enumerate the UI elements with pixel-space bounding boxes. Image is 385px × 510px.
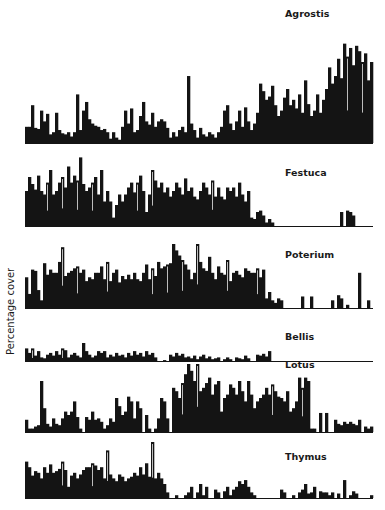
- bar: [223, 491, 226, 498]
- bar: [205, 358, 208, 361]
- bar: [256, 212, 259, 226]
- bar: [151, 353, 154, 361]
- bar: [280, 111, 283, 143]
- bar: [178, 188, 181, 227]
- bar: [148, 195, 151, 227]
- bar: [289, 105, 292, 143]
- bar: [196, 359, 199, 361]
- bar: [214, 384, 217, 432]
- bar: [274, 105, 277, 143]
- bar: [274, 391, 277, 432]
- bar: [70, 476, 73, 498]
- bar: [241, 484, 244, 498]
- bar: [253, 273, 256, 308]
- bar: [58, 130, 61, 143]
- bar: [199, 128, 202, 143]
- bar: [127, 353, 130, 361]
- bar: [205, 383, 208, 432]
- bar: [46, 275, 49, 308]
- bar: [61, 418, 64, 432]
- bar: [43, 467, 46, 498]
- bar: [94, 177, 97, 226]
- bar: [340, 425, 343, 432]
- bar-highlight: [302, 390, 303, 417]
- bar: [262, 270, 265, 308]
- bar: [25, 462, 28, 498]
- bar-highlight: [32, 350, 33, 358]
- bar: [73, 473, 76, 498]
- bar: [274, 303, 277, 308]
- bar: [109, 474, 112, 498]
- bar: [73, 268, 76, 308]
- bar: [199, 262, 202, 308]
- bar: [100, 266, 103, 308]
- bar: [343, 480, 346, 498]
- bar: [199, 191, 202, 226]
- bar: [235, 395, 238, 432]
- bar: [169, 197, 172, 226]
- bar: [172, 244, 175, 308]
- bar: [130, 477, 133, 498]
- bar: [133, 351, 136, 361]
- bar: [55, 471, 58, 498]
- bar: [70, 412, 73, 432]
- bar-highlight: [182, 262, 183, 291]
- bar: [115, 481, 118, 498]
- bar: [25, 191, 28, 226]
- bar: [76, 478, 79, 498]
- bar: [334, 76, 337, 143]
- bar: [190, 279, 193, 308]
- bar: [40, 357, 43, 361]
- bar: [346, 211, 349, 226]
- bar: [52, 273, 55, 308]
- bar: [67, 132, 70, 143]
- bar: [163, 401, 166, 432]
- bar-highlight: [227, 262, 228, 291]
- bar: [154, 127, 157, 143]
- bar: [79, 130, 82, 143]
- bar: [115, 205, 118, 226]
- bar: [241, 359, 244, 361]
- bar: [217, 132, 220, 143]
- bar: [280, 398, 283, 432]
- bar: [265, 223, 268, 227]
- bar: [85, 102, 88, 143]
- bar: [97, 195, 100, 227]
- bar: [223, 199, 226, 226]
- bar: [145, 121, 148, 143]
- bar: [55, 351, 58, 361]
- bar: [298, 378, 301, 432]
- bar: [184, 374, 187, 432]
- bar: [208, 132, 211, 143]
- bar: [352, 491, 355, 498]
- bar: [154, 429, 157, 432]
- bar: [253, 124, 256, 143]
- bar: [262, 216, 265, 227]
- bar: [37, 290, 40, 308]
- bar: [70, 271, 73, 308]
- bar: [271, 300, 274, 308]
- bar: [91, 279, 94, 308]
- bar: [112, 132, 115, 143]
- bar: [181, 354, 184, 361]
- bar: [148, 279, 151, 308]
- bar: [172, 132, 175, 143]
- bar: [220, 127, 223, 143]
- bar: [55, 113, 58, 143]
- bar-highlight: [167, 266, 168, 292]
- bar: [145, 212, 148, 226]
- bar: [178, 256, 181, 308]
- bar: [169, 138, 172, 143]
- bar: [190, 188, 193, 227]
- bar: [325, 89, 328, 143]
- panels-group: AgrostisFestucaPoteriumBellisLotusThymus: [25, 8, 373, 499]
- bar: [178, 130, 181, 143]
- bar: [64, 134, 67, 143]
- bar: [37, 129, 40, 143]
- panel-agrostis: Agrostis: [25, 8, 373, 144]
- bar: [244, 202, 247, 227]
- bar: [145, 351, 148, 361]
- bar: [292, 100, 295, 143]
- bar: [256, 113, 259, 143]
- bar: [208, 378, 211, 432]
